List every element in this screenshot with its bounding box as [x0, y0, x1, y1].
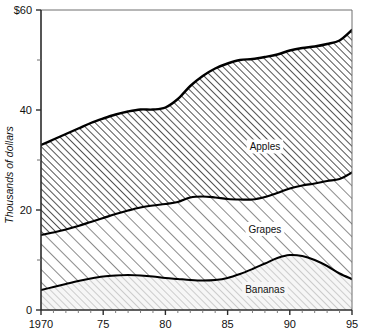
chart-canvas: $6040200 19707580859095 Thousands of dol…: [0, 0, 365, 336]
y-tick-label: 0: [26, 304, 32, 316]
x-tick-label: 1970: [29, 318, 53, 330]
y-axis-title: Thousands of dollars: [3, 126, 15, 224]
x-tick-label: 90: [284, 318, 296, 330]
series-label-bananas: Bananas: [245, 284, 284, 295]
x-tick-label: 85: [221, 318, 233, 330]
x-axis-tick-labels: 19707580859095: [29, 318, 358, 330]
series-label-apples: Apples: [250, 141, 281, 152]
y-tick-label: $60: [14, 4, 32, 16]
stacked-area-chart: $6040200 19707580859095 Thousands of dol…: [0, 0, 365, 336]
y-axis-tick-labels: $6040200: [14, 4, 32, 316]
y-tick-label: 20: [20, 204, 32, 216]
x-tick-label: 95: [346, 318, 358, 330]
series-label-grapes: Grapes: [249, 224, 282, 235]
y-tick-label: 40: [20, 104, 32, 116]
x-tick-label: 80: [159, 318, 171, 330]
x-tick-label: 75: [97, 318, 109, 330]
